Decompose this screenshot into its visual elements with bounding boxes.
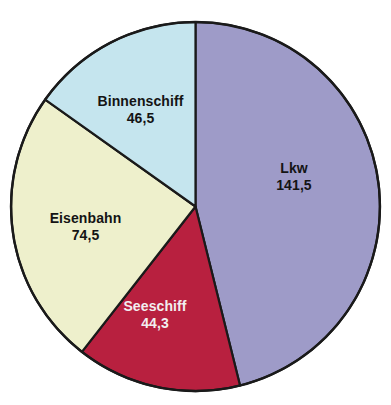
pie-chart: Lkw 141,5 Seeschiff 44,3 Eisenbahn 74,5 … (0, 0, 391, 405)
pie-slices (11, 22, 380, 391)
pie-chart-canvas (0, 0, 391, 405)
